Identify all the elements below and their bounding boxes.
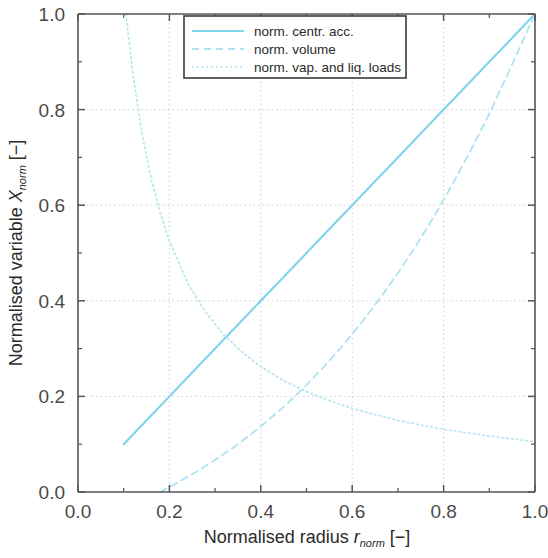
x-tick-label: 0.4	[248, 501, 275, 522]
y-tick-label: 0.2	[39, 386, 65, 407]
y-tick-label: 1.0	[39, 4, 65, 25]
x-tick-label: 0.6	[339, 501, 365, 522]
x-tick-label: 1.0	[522, 501, 548, 522]
y-tick-label: 0.4	[39, 291, 66, 312]
x-tick-label: 0.0	[65, 501, 91, 522]
normalised-variable-vs-radius-chart: 0.00.20.40.60.81.00.00.20.40.60.81.0 nor…	[0, 0, 548, 558]
chart-figure: 0.00.20.40.60.81.00.00.20.40.60.81.0 nor…	[0, 0, 548, 558]
y-tick-label: 0.0	[39, 482, 65, 503]
y-tick-label: 0.8	[39, 100, 65, 121]
legend-item-label: norm. volume	[254, 42, 336, 57]
chart-legend: norm. centr. acc.norm. volumenorm. vap. …	[184, 16, 406, 78]
y-tick-label: 0.6	[39, 195, 65, 216]
x-tick-label: 0.8	[430, 501, 456, 522]
legend-item-label: norm. centr. acc.	[254, 24, 354, 39]
legend-item-label: norm. vap. and liq. loads	[254, 60, 401, 75]
x-tick-label: 0.2	[156, 501, 182, 522]
figure-background	[0, 0, 548, 558]
